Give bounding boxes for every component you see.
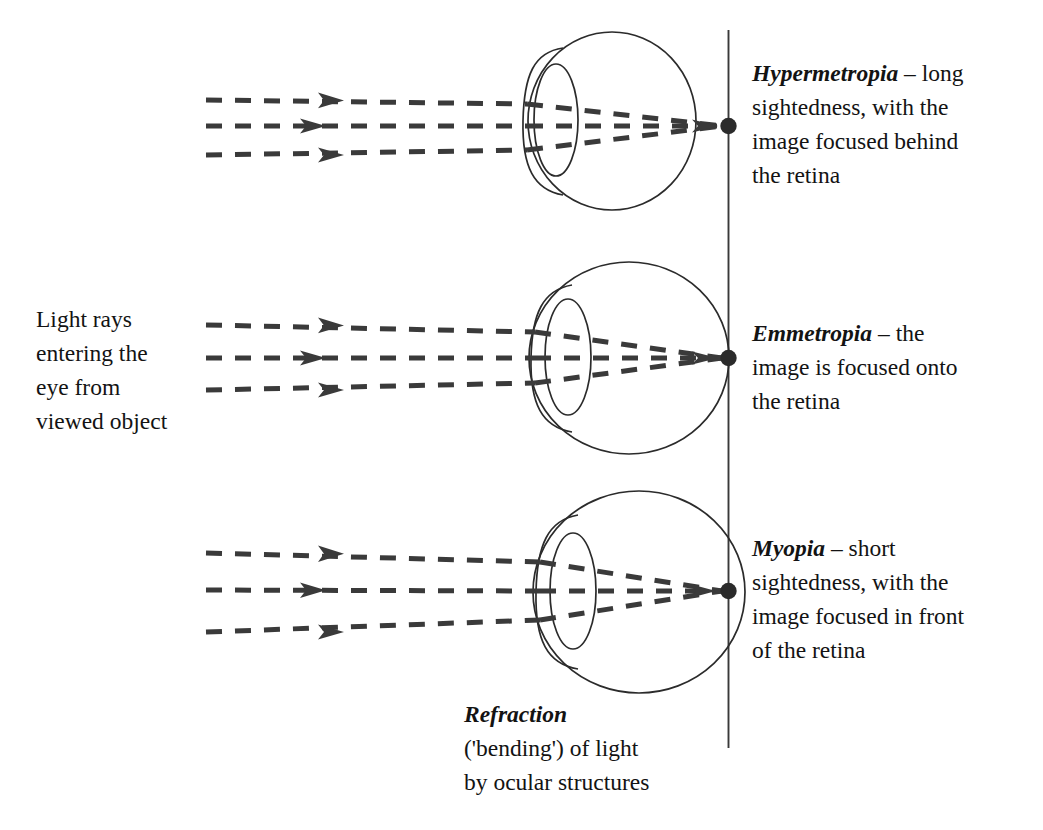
eye-emmetropia (206, 262, 737, 454)
refraction-term: Refraction (464, 697, 649, 731)
lens-outline (534, 64, 578, 176)
light-source-label: Light rays entering the eye from viewed … (36, 302, 167, 438)
incident-ray-top (206, 553, 540, 562)
refraction-line-3: by ocular structures (464, 765, 649, 799)
refraction-line-2: ('bending') of light (464, 731, 649, 765)
myopia-term: Myopia (752, 535, 825, 561)
myopia-line-3: image focused in front (752, 599, 964, 633)
ray-arrowhead-bottom (318, 383, 344, 398)
emmetropia-line-3: the retina (752, 384, 958, 418)
myopia-line-2: sightedness, with the (752, 565, 964, 599)
incident-ray-top (206, 100, 527, 104)
hypermetropia-label: Hypermetropia – long sightedness, with t… (752, 56, 963, 192)
light-source-line-2: entering the (36, 336, 167, 370)
eyeball-outline (528, 32, 696, 210)
light-source-line-1: Light rays (36, 302, 167, 336)
diagram-page: Light rays entering the eye from viewed … (0, 0, 1043, 830)
refracted-ray-top (527, 104, 722, 126)
myopia-line-1-rest: – short (825, 535, 896, 561)
light-source-line-3: eye from (36, 370, 167, 404)
incident-ray-bottom (206, 620, 540, 632)
hypermetropia-line-3: image focused behind (752, 124, 963, 158)
emmetropia-label: Emmetropia – the image is focused onto t… (752, 316, 958, 418)
myopia-line-1: Myopia – short (752, 531, 964, 565)
ray-arrowhead-top (318, 93, 344, 109)
refraction-caption: Refraction ('bending') of light by ocula… (464, 697, 649, 799)
incident-ray-top (206, 325, 535, 332)
emmetropia-term: Emmetropia (752, 320, 872, 346)
hypermetropia-line-1-rest: – long (898, 60, 963, 86)
hypermetropia-term: Hypermetropia (752, 60, 898, 86)
focal-point-emmetropia (720, 350, 736, 366)
hypermetropia-line-4: the retina (752, 158, 963, 192)
emmetropia-line-1-rest: – the (872, 320, 924, 346)
focal-point-myopia (720, 583, 736, 599)
ray-arrowhead-bottom (318, 148, 344, 163)
hypermetropia-line-1: Hypermetropia – long (752, 56, 963, 90)
emmetropia-line-2: image is focused onto (752, 350, 958, 384)
incident-ray-bottom (206, 150, 527, 155)
eye-hypermetropia (206, 32, 737, 210)
incident-ray-middle (206, 590, 540, 591)
refracted-ray-top (535, 332, 722, 358)
hypermetropia-line-2: sightedness, with the (752, 90, 963, 124)
ray-arrowhead-top (318, 318, 344, 334)
ray-arrowhead-top (318, 546, 344, 562)
light-source-line-4: viewed object (36, 404, 167, 438)
focal-point-hypermetropia (720, 118, 736, 134)
refracted-ray-bottom (535, 358, 722, 383)
incident-ray-bottom (206, 383, 535, 390)
emmetropia-line-1: Emmetropia – the (752, 316, 958, 350)
myopia-label: Myopia – short sightedness, with the ima… (752, 531, 964, 667)
myopia-line-4: of the retina (752, 633, 964, 667)
eye-myopia (206, 491, 745, 693)
